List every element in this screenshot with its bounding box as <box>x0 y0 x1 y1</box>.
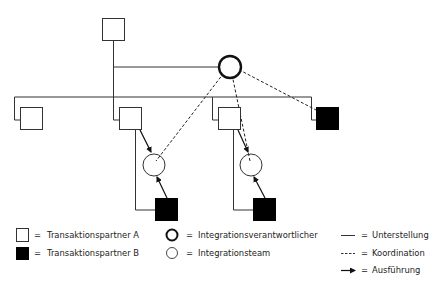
legend-label-integration-team: Integrationsteam <box>198 248 270 258</box>
legend-equals: = <box>186 230 193 240</box>
top-partner-a-node <box>103 19 125 41</box>
legend-equals: = <box>361 248 368 258</box>
legend-label-partner-b: Transaktionspartner B <box>47 248 139 258</box>
legend-label-reporting: Unterstellung <box>372 230 429 240</box>
legend-label-partner-a: Transaktionspartner A <box>47 230 139 240</box>
integration-lead-node <box>219 56 241 78</box>
partner-b-node-left <box>155 198 178 221</box>
integration-team-node-left <box>143 154 165 176</box>
legend-equals: = <box>34 230 41 240</box>
legend-equals: = <box>34 248 41 258</box>
legend-thick-circle-icon <box>167 230 178 241</box>
legend-white-square-icon <box>17 229 29 242</box>
legend-equals: = <box>186 248 193 258</box>
legend-thin-circle-icon <box>167 248 178 259</box>
partner-b-node-middle <box>253 198 276 221</box>
legend-label-coordination: Koordination <box>372 248 425 258</box>
integration-team-node-right <box>240 154 262 176</box>
partner-b-node-right <box>316 107 339 130</box>
partner-a-node-3 <box>219 108 241 130</box>
legend-equals: = <box>361 265 368 275</box>
reporting-lines <box>15 41 317 210</box>
legend-black-square-icon <box>16 247 29 260</box>
legend-label-execution: Ausführung <box>372 265 420 275</box>
legend-label-integration-lead: Integrationsverantwortlicher <box>198 230 318 240</box>
partner-a-node-1 <box>21 108 43 130</box>
legend-equals: = <box>361 230 368 240</box>
execution-arrows <box>140 130 265 198</box>
partner-a-node-2 <box>120 108 142 130</box>
